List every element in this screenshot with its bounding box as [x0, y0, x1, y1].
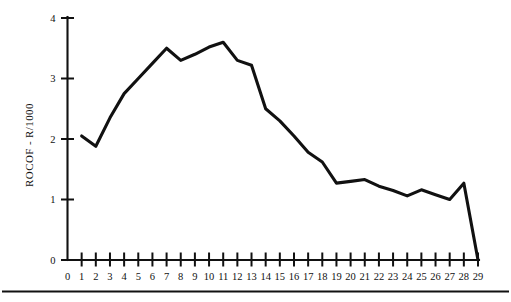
x-tick-label: 25 — [416, 271, 427, 282]
x-tick-label: 0 — [65, 271, 70, 282]
x-tick-label: 7 — [164, 271, 169, 282]
x-tick-label: 23 — [388, 271, 399, 282]
x-tick-label: 8 — [178, 271, 183, 282]
y-tick-label: 2 — [50, 134, 55, 145]
x-tick-label: 24 — [402, 271, 413, 282]
x-tick-label: 29 — [473, 271, 484, 282]
x-tick-label: 10 — [204, 271, 215, 282]
y-tick-label: 3 — [50, 73, 55, 84]
y-axis-title: ROCOF - R/1000 — [23, 103, 35, 187]
rocof-line-chart: 0123401234567891011121314151617181920212… — [0, 0, 511, 302]
x-tick-label: 22 — [374, 271, 385, 282]
y-tick-label: 4 — [50, 13, 56, 24]
x-tick-label: 21 — [360, 271, 371, 282]
x-tick-label: 15 — [275, 271, 286, 282]
x-tick-label: 17 — [303, 271, 314, 282]
x-tick-label: 14 — [260, 271, 271, 282]
x-tick-label: 6 — [150, 271, 155, 282]
chart-plot-area: 0123401234567891011121314151617181920212… — [0, 0, 511, 302]
x-tick-label: 9 — [192, 271, 197, 282]
x-tick-label: 11 — [218, 271, 228, 282]
x-tick-label: 4 — [121, 271, 127, 282]
x-tick-label: 3 — [107, 271, 112, 282]
data-series-line-0 — [82, 42, 478, 260]
y-tick-label: 1 — [50, 194, 55, 205]
x-tick-label: 20 — [345, 271, 356, 282]
x-tick-label: 2 — [93, 271, 98, 282]
x-tick-label: 19 — [331, 271, 342, 282]
x-tick-label: 18 — [317, 271, 328, 282]
y-tick-label: 0 — [50, 255, 55, 266]
x-tick-label: 1 — [79, 271, 84, 282]
x-tick-label: 5 — [136, 271, 141, 282]
x-tick-label: 13 — [246, 271, 257, 282]
x-tick-label: 28 — [459, 271, 470, 282]
x-tick-label: 12 — [232, 271, 243, 282]
x-tick-label: 27 — [444, 271, 455, 282]
x-tick-label: 16 — [289, 271, 300, 282]
x-tick-label: 26 — [430, 271, 441, 282]
